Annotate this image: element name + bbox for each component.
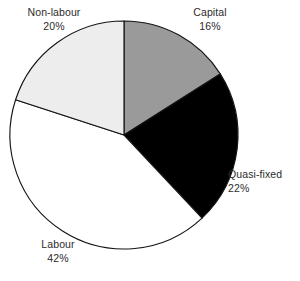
slice-label-labour: Labour 42% [16,238,100,265]
slice-label-capital-value: 16% [168,20,252,34]
slice-label-quasi-fixed-name: Quasi-fixed [228,168,300,182]
pie-slice-group [10,21,238,249]
slice-label-quasi-fixed-value: 22% [228,182,300,196]
slice-label-quasi-fixed: Quasi-fixed 22% [228,168,300,195]
slice-label-non-labour-value: 20% [8,20,100,34]
slice-label-capital: Capital 16% [168,6,252,33]
slice-label-non-labour: Non-labour 20% [8,6,100,33]
slice-label-capital-name: Capital [168,6,252,20]
slice-label-non-labour-name: Non-labour [8,6,100,20]
slice-label-labour-value: 42% [16,252,100,266]
pie-chart-figure: Non-labour 20% Capital 16% Quasi-fixed 2… [0,0,300,281]
slice-label-labour-name: Labour [16,238,100,252]
